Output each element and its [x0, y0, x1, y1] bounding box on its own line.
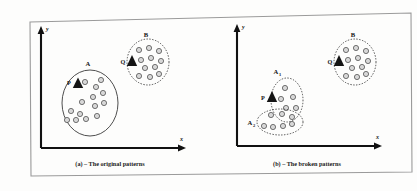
panel-b-marker-Q-triangle-icon: [334, 55, 344, 66]
panel-b: y x A 1: [234, 24, 382, 168]
figure-container: y x A: [0, 0, 417, 191]
panel-a-x-axis-label: x: [179, 136, 183, 142]
panel-b-cluster-A2-points: [261, 111, 294, 129]
panel-a-y-axis: [38, 26, 45, 148]
panel-a-x-axis: [41, 145, 186, 152]
panel-b-cluster-A2-subscript: 2: [253, 123, 255, 128]
panel-a-cluster-A-label: A: [86, 60, 91, 67]
panel-b-cluster-A2: A 2: [248, 109, 303, 135]
panel-b-cluster-A2-label: A: [248, 119, 253, 126]
panel-a-cluster-B-label: B: [144, 31, 149, 38]
panel-b-cluster-B-label: B: [351, 31, 356, 38]
panel-a-cluster-B-points: [136, 45, 163, 79]
panel-a-marker-P-label: P: [67, 79, 71, 86]
panel-a: y x A: [38, 26, 186, 168]
panel-b-marker-Q-label: Q: [328, 58, 333, 65]
panel-a-cluster-B: B Q: [121, 31, 169, 85]
panel-b-cluster-B-points: [343, 45, 370, 79]
panel-b-cluster-A1-label: A: [274, 68, 279, 75]
figure-canvas: y x A: [0, 0, 417, 191]
panel-a-marker-Q-label: Q: [121, 58, 126, 65]
panel-b-y-axis-label: y: [241, 24, 245, 30]
panel-b-x-axis: [237, 143, 382, 150]
panel-a-y-axis-label: y: [45, 26, 49, 32]
panel-b-marker-P: P: [261, 91, 277, 102]
panel-a-caption: (a) – The original patterns: [75, 160, 145, 168]
panel-b-marker-P-triangle-icon: [267, 91, 277, 102]
panel-b-y-axis: [234, 24, 241, 146]
panel-b-cluster-B: B Q: [328, 31, 376, 85]
panel-a-marker-Q-triangle-icon: [127, 55, 137, 66]
panel-b-cluster-A1-subscript: 1: [279, 72, 281, 77]
panel-b-x-axis-label: x: [375, 134, 379, 140]
panel-b-caption: (b) – The broken patterns: [273, 160, 341, 168]
panel-b-cluster-A1-points: [278, 85, 298, 110]
panel-a-cluster-A: A P: [62, 60, 118, 136]
panel-a-marker-P-triangle-icon: [73, 78, 83, 89]
panel-b-marker-P-label: P: [261, 94, 265, 101]
